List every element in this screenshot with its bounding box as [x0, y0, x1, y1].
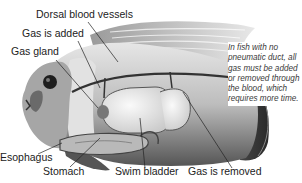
label-gas-gland: Gas gland — [11, 46, 59, 57]
label-gas-is-added: Gas is added — [22, 28, 84, 39]
fish-head — [22, 62, 72, 148]
swim-bladder-diagram: Dorsal blood vessels Gas is added Gas gl… — [0, 0, 302, 183]
label-stomach: Stomach — [43, 166, 84, 177]
label-gas-is-removed: Gas is removed — [188, 166, 262, 177]
label-dorsal-blood-vessels: Dorsal blood vessels — [36, 9, 133, 20]
label-esophagus: Esophagus — [0, 152, 53, 163]
explanatory-note: In fish with no pneumatic duct, all gas … — [228, 42, 302, 106]
stomach — [60, 133, 148, 154]
swim-bladder — [97, 87, 190, 133]
label-swim-bladder: Swim bladder — [115, 166, 179, 177]
gas-gland — [97, 105, 109, 119]
eye — [43, 75, 57, 89]
